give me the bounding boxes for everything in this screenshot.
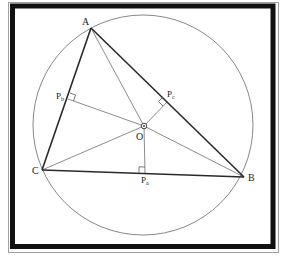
segment-OA	[91, 28, 144, 126]
label-B: B	[248, 172, 255, 183]
label-Pa: Pa	[141, 175, 149, 186]
side-CA	[42, 28, 91, 170]
label-Pb-sub: b	[61, 96, 64, 102]
perpendicular-O-Pa	[144, 126, 145, 173]
segment-OC	[42, 126, 144, 170]
label-Pa-sub: a	[146, 180, 149, 186]
label-C: C	[32, 165, 39, 176]
label-Pc: Pc	[167, 89, 175, 100]
label-Pc-sub: c	[172, 94, 175, 100]
right-angle-marker-Pc	[159, 98, 164, 107]
center-O-dot	[143, 125, 145, 127]
label-Pb: Pb	[56, 91, 64, 102]
label-O: O	[136, 131, 143, 142]
segment-OB	[144, 126, 244, 177]
perpendicular-O-Pb	[68, 99, 144, 126]
side-AB	[91, 28, 244, 177]
perpendicular-O-Pc	[144, 102, 167, 126]
right-angle-marker-Pa	[139, 167, 145, 173]
label-A: A	[82, 16, 90, 27]
geometry-figure: A B C O Pa Pb Pc	[0, 0, 285, 259]
